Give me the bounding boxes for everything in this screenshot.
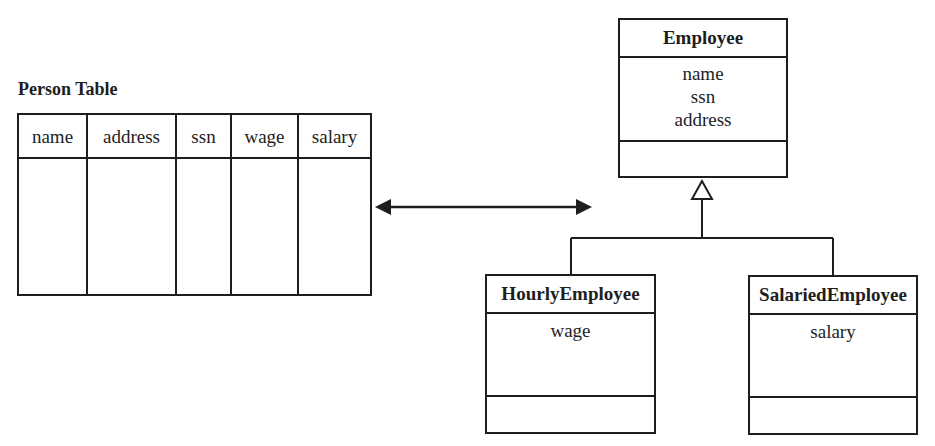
attribute: salary	[750, 320, 916, 343]
attribute: wage	[487, 319, 654, 342]
class-name: SalariedEmployee	[750, 277, 916, 315]
attribute: address	[620, 108, 786, 131]
attribute: name	[620, 62, 786, 85]
class-hourly-employee: HourlyEmployee wage	[485, 274, 656, 434]
class-attributes: wage	[487, 314, 654, 397]
class-name: HourlyEmployee	[487, 276, 654, 314]
attribute: ssn	[620, 85, 786, 108]
class-employee: Employee name ssn address	[618, 18, 788, 178]
class-salaried-employee: SalariedEmployee salary	[748, 275, 918, 435]
inheritance-connector	[571, 181, 833, 276]
class-attributes: salary	[750, 315, 916, 398]
class-name: Employee	[620, 20, 786, 58]
bidirectional-arrow	[375, 199, 592, 215]
class-attributes: name ssn address	[620, 58, 786, 142]
